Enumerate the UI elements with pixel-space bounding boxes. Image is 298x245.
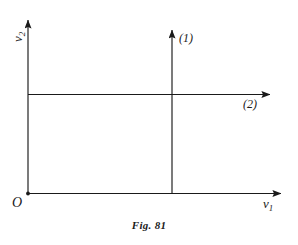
- curve-1-label: (1): [179, 32, 193, 44]
- origin-label: O: [12, 196, 22, 210]
- v2-axis-label: v2: [9, 12, 25, 22]
- figure-drawing: [0, 0, 298, 245]
- v2-axis-label-variable: v: [10, 36, 25, 42]
- curve-2-label: (2): [243, 98, 257, 110]
- origin-node-dot: [26, 192, 30, 196]
- v1-axis-label-subscript: 1: [269, 203, 273, 213]
- figure-caption: Fig. 81: [0, 219, 298, 231]
- v2-axis-label-subscript: 2: [17, 32, 27, 36]
- v1-axis-label: v1: [263, 197, 273, 213]
- figure-container: v2 v1 (1) (2) O Fig. 81: [0, 0, 298, 245]
